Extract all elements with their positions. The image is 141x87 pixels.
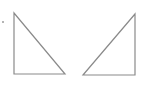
- left-right-triangle: [14, 13, 65, 74]
- triangles-diagram: [0, 0, 141, 87]
- bullet-dot: [2, 21, 4, 23]
- right-right-triangle: [83, 14, 135, 75]
